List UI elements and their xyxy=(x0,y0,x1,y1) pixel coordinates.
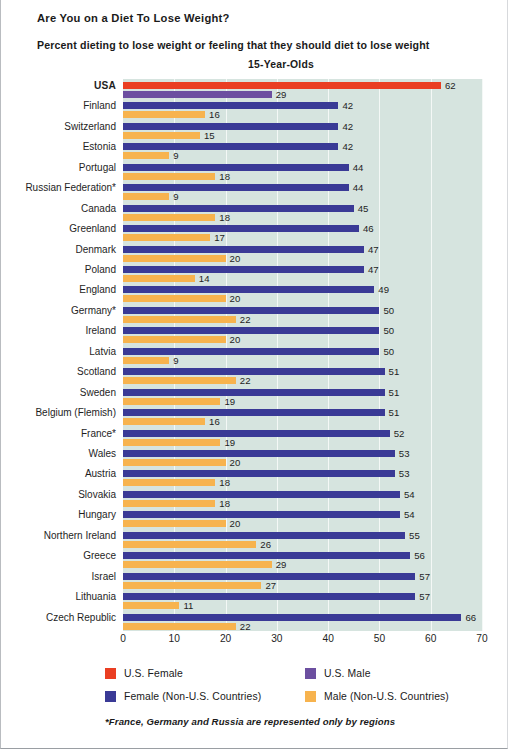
bar-male xyxy=(123,275,195,282)
category-label: Canada xyxy=(81,204,116,214)
bar-male xyxy=(123,500,215,507)
bar-value-male: 22 xyxy=(240,376,251,385)
legend-label: U.S. Female xyxy=(124,668,183,679)
legend-item: Male (Non-U.S. Countries) xyxy=(305,691,449,702)
bar-female xyxy=(123,286,374,293)
page-subtitle: Percent dieting to lose weight or feelin… xyxy=(37,38,487,52)
bar-value-female: 46 xyxy=(363,224,374,233)
chart-row: Canada4518 xyxy=(123,205,482,225)
bar-value-female: 50 xyxy=(383,306,394,315)
chart-row: France*5219 xyxy=(123,430,482,450)
bar-value-female: 56 xyxy=(414,551,425,560)
category-label: Slovakia xyxy=(78,490,116,500)
bar-value-male: 22 xyxy=(240,622,251,631)
bar-value-male: 18 xyxy=(219,172,230,181)
bar-female xyxy=(123,532,405,539)
category-label: Denmark xyxy=(75,245,116,255)
bar-female xyxy=(123,409,385,416)
bar-male xyxy=(123,336,226,343)
bar-female xyxy=(123,348,379,355)
bar-male xyxy=(123,214,215,221)
category-label: Estonia xyxy=(83,142,116,152)
bar-value-male: 14 xyxy=(199,274,210,283)
x-tick-30: 30 xyxy=(271,633,282,644)
bar-value-female: 57 xyxy=(419,572,430,581)
bar-value-male: 20 xyxy=(230,458,241,467)
chart-row: Estonia429 xyxy=(123,143,482,163)
category-label: Greece xyxy=(83,551,116,561)
chart-page: Are You on a Diet To Lose Weight? Percen… xyxy=(0,0,508,749)
category-label: Scotland xyxy=(77,367,116,377)
legend-row-2: Female (Non-U.S. Countries)Male (Non-U.S… xyxy=(105,691,485,714)
bar-female xyxy=(123,164,349,171)
category-label: Belgium (Flemish) xyxy=(35,408,116,418)
bar-female xyxy=(123,266,364,273)
bar-value-female: 50 xyxy=(383,326,394,335)
bar-value-female: 47 xyxy=(368,265,379,274)
category-label: Israel xyxy=(92,572,116,582)
bar-female xyxy=(123,389,385,396)
bar-male xyxy=(123,602,179,609)
bar-male xyxy=(123,173,215,180)
chart-row: USA6229 xyxy=(123,82,482,102)
category-label: Northern Ireland xyxy=(44,531,116,541)
bar-value-female: 54 xyxy=(404,490,415,499)
bar-value-male: 20 xyxy=(230,294,241,303)
bar-male xyxy=(123,520,226,527)
bar-value-male: 20 xyxy=(230,335,241,344)
bar-value-female: 62 xyxy=(445,81,456,90)
bar-value-female: 53 xyxy=(399,449,410,458)
bar-female xyxy=(123,511,400,518)
bar-value-male: 9 xyxy=(173,151,178,160)
x-tick-10: 10 xyxy=(169,633,180,644)
bar-female xyxy=(123,205,354,212)
bar-female xyxy=(123,593,415,600)
chart-row: Switzerland4215 xyxy=(123,123,482,143)
x-tick-20: 20 xyxy=(220,633,231,644)
bar-value-male: 16 xyxy=(209,110,220,119)
chart-row: Belgium (Flemish)5116 xyxy=(123,409,482,429)
chart-row: Lithuania5711 xyxy=(123,593,482,613)
page-title: Are You on a Diet To Lose Weight? xyxy=(37,11,487,25)
chart-heading: 15-Year-Olds xyxy=(1,59,508,70)
bar-value-female: 55 xyxy=(409,531,420,540)
bar-value-male: 17 xyxy=(214,233,225,242)
chart-row: Latvia509 xyxy=(123,348,482,368)
legend-label: Male (Non-U.S. Countries) xyxy=(324,691,449,702)
category-label: Lithuania xyxy=(75,592,116,602)
bar-value-female: 45 xyxy=(358,204,369,213)
bar-value-male: 29 xyxy=(276,90,287,99)
bar-female xyxy=(123,470,395,477)
x-axis: 010203040506070 xyxy=(123,633,482,649)
bar-male xyxy=(123,398,220,405)
bar-value-female: 42 xyxy=(342,101,353,110)
bar-male xyxy=(123,91,272,98)
chart-row: Sweden5119 xyxy=(123,389,482,409)
bar-value-male: 22 xyxy=(240,315,251,324)
chart-row: Czech Republic6622 xyxy=(123,614,482,634)
bar-value-male: 19 xyxy=(224,397,235,406)
bar-female xyxy=(123,82,441,89)
category-label: Latvia xyxy=(89,347,116,357)
bar-value-male: 18 xyxy=(219,499,230,508)
chart-legend: U.S. FemaleU.S. Male Female (Non-U.S. Co… xyxy=(105,668,485,714)
category-label: Switzerland xyxy=(64,122,116,132)
bar-value-male: 26 xyxy=(260,540,271,549)
bar-female xyxy=(123,552,410,559)
bar-male xyxy=(123,479,215,486)
bar-male xyxy=(123,132,200,139)
bar-value-male: 9 xyxy=(173,192,178,201)
bar-value-male: 19 xyxy=(224,438,235,447)
bar-value-male: 9 xyxy=(173,356,178,365)
bar-value-female: 51 xyxy=(389,408,400,417)
bar-male xyxy=(123,357,169,364)
category-label: Greenland xyxy=(69,224,116,234)
bar-female xyxy=(123,327,379,334)
category-label: England xyxy=(79,285,116,295)
legend-row-1: U.S. FemaleU.S. Male xyxy=(105,668,485,691)
x-tick-40: 40 xyxy=(322,633,333,644)
bar-value-female: 42 xyxy=(342,142,353,151)
footnote: *France, Germany and Russia are represen… xyxy=(105,716,395,727)
bar-male xyxy=(123,459,226,466)
category-label: Ireland xyxy=(85,326,116,336)
